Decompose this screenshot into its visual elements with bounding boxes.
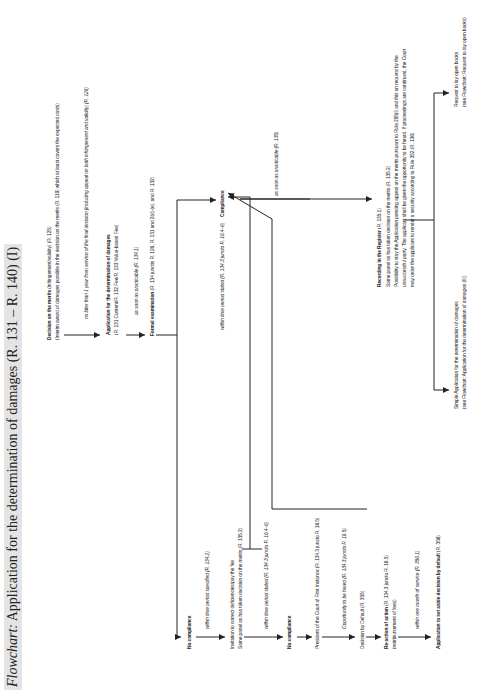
invitation-note: Same panel as has taken decision on the … xyxy=(236,528,244,649)
node-reaction: Re-action of action (R. 134.3 juncto R. … xyxy=(382,555,390,649)
node-formal-examination: Formal examination (R. 134 junctis R. 12… xyxy=(148,177,156,336)
arrow-default-to-compliance xyxy=(228,193,367,509)
node-simple-application: Simple Application for the determination… xyxy=(452,301,460,409)
node-application: Application for the determination of dam… xyxy=(104,234,112,335)
recording-line-2: Possibility to stay the Application pend… xyxy=(392,55,400,287)
recording-line-3: unsuccessful party. The applicant shall … xyxy=(400,49,408,287)
edge-label-within-stated-top: within time period stated (R. 134.3 junc… xyxy=(218,223,226,330)
arrow-invitation-to-compliance xyxy=(228,197,250,549)
reaction-note: (reimbursement of fees) xyxy=(390,600,398,649)
recording-line-1: Same panel as has taken decision on the … xyxy=(384,166,392,287)
decision-merits-note: (Interim award of damages possible in th… xyxy=(53,103,61,340)
node-decision-merits: Decision on the merits (infringement/val… xyxy=(45,227,53,340)
edge-label-one-year: no later than 1 year from service of the… xyxy=(82,87,90,319)
simple-application-ref[interactable]: (see Flowchart: Application for the dete… xyxy=(460,275,468,409)
node-no-compliance-1: No compliance xyxy=(185,616,193,649)
node-request-open-books: Request to lay open books xyxy=(452,52,460,107)
node-compliance: Compliance xyxy=(218,190,226,217)
node-recording: Recording in the Register (R. 135.1) xyxy=(375,208,383,287)
node-set-aside: Application to set aside decision by def… xyxy=(434,535,442,649)
node-invitation: Invitation to correct deficiencies/pay t… xyxy=(228,560,236,649)
node-president: President of the Court of First Instance… xyxy=(313,518,321,649)
edge-label-asap-135: as soon as practicable (R. 135) xyxy=(272,132,280,196)
flowchart-page: Flowchart: Application for the determina… xyxy=(0,0,480,699)
edge-label-one-month: within one month of service (R. 356.1) xyxy=(413,551,421,629)
application-note: (R. 131 Content/R. 132 Fee/R. 133 Value-… xyxy=(112,225,120,335)
recording-line-4: may order the applicant to render a secu… xyxy=(408,133,416,287)
edge-label-opportunity: Opportunity to be heard (R. 134.3 juncto… xyxy=(340,528,348,629)
edge-label-within-specified: within time period specified (R. 134.2) xyxy=(203,551,211,629)
node-no-compliance-2: No compliance xyxy=(285,616,293,649)
node-decision-default: Decision by Default (R. 355) xyxy=(358,591,366,649)
edge-label-within-stated-mid: within time period stated (R. 134.3 junc… xyxy=(262,522,270,629)
request-open-books-ref[interactable]: (see Flowchart: Request to lay open book… xyxy=(460,17,468,107)
edge-label-asap-134-1: as soon as practicable (R. 134.1) xyxy=(132,247,140,315)
